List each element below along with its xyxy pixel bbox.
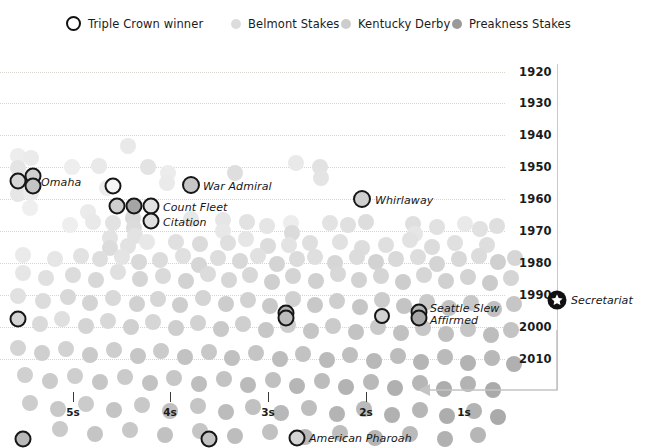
triple-crown-marker[interactable] <box>105 178 122 195</box>
data-point <box>17 367 33 383</box>
triple-crown-marker[interactable] <box>25 178 42 195</box>
annotation-war-admiral: War Admiral <box>203 180 272 193</box>
data-point <box>402 232 418 248</box>
data-point <box>168 320 184 336</box>
data-point <box>395 274 411 290</box>
data-point <box>10 288 26 304</box>
data-point <box>54 311 70 327</box>
data-point <box>120 138 136 154</box>
data-point <box>22 200 38 216</box>
triple-crown-marker[interactable] <box>15 431 32 448</box>
legend-label: Belmont Stakes <box>248 17 339 31</box>
data-point <box>38 270 54 286</box>
data-point <box>363 374 379 390</box>
data-point <box>303 323 319 339</box>
data-point <box>258 322 274 338</box>
annotation-american-pharoah: American Pharoah <box>309 432 412 445</box>
data-point <box>242 267 258 283</box>
data-point <box>23 150 39 166</box>
data-point <box>220 235 236 251</box>
data-point <box>329 293 345 309</box>
data-point <box>177 349 193 365</box>
data-point <box>285 268 301 284</box>
data-point <box>64 159 80 175</box>
legend-swatch-icon <box>231 19 241 29</box>
x-axis-label-2s: 2s <box>359 406 373 418</box>
data-point <box>114 249 130 265</box>
annotation-whirlaway: Whirlaway <box>375 194 433 207</box>
y-axis-label-1940: 1940 <box>519 128 552 142</box>
data-point <box>172 297 188 313</box>
y-axis-label-1920: 1920 <box>519 65 552 79</box>
data-point <box>155 268 171 284</box>
annotation-line: American Pharoah <box>309 432 412 445</box>
secretariat-star-icon[interactable] <box>548 291 567 310</box>
data-point <box>142 375 158 391</box>
data-point <box>269 256 285 272</box>
data-point <box>349 249 365 265</box>
data-point <box>85 214 101 230</box>
data-point <box>238 231 254 247</box>
data-point <box>240 292 256 308</box>
triple-crown-marker[interactable] <box>353 190 371 208</box>
data-point <box>106 342 122 358</box>
data-point <box>340 217 356 233</box>
legend-item-triple-crown-winner[interactable]: Triple Crown winner <box>66 16 203 31</box>
x-axis-label-1s: 1s <box>457 406 471 418</box>
data-point <box>159 175 175 191</box>
data-point <box>366 353 382 369</box>
data-point <box>15 247 31 263</box>
data-point <box>503 270 519 286</box>
triple-crown-marker[interactable] <box>182 176 200 194</box>
y-axis-label-1950: 1950 <box>519 160 552 174</box>
triple-crown-marker[interactable] <box>374 308 390 324</box>
data-point <box>259 218 275 234</box>
data-point <box>210 250 226 266</box>
legend-item-preakness-stakes[interactable]: Preakness Stakes <box>452 17 571 31</box>
data-point <box>78 318 94 334</box>
data-point <box>91 158 107 174</box>
triple-crown-marker[interactable] <box>411 310 428 327</box>
legend-swatch-icon <box>452 19 462 29</box>
triple-crown-marker[interactable] <box>289 430 306 447</box>
annotation-seattle-slew-affirmed: Seattle SlewAffirmed <box>430 303 499 326</box>
data-point <box>373 268 389 284</box>
data-point <box>62 217 78 233</box>
data-point <box>123 319 139 335</box>
data-point <box>289 251 305 267</box>
annotation-line: War Admiral <box>203 180 272 193</box>
data-point <box>295 346 311 362</box>
triple-crown-marker[interactable] <box>109 198 126 215</box>
legend-item-belmont-stakes[interactable]: Belmont Stakes <box>231 17 339 31</box>
x-axis-tick-3s <box>268 392 269 402</box>
triple-crown-marker[interactable] <box>10 311 27 328</box>
data-point <box>213 321 229 337</box>
data-point <box>216 371 232 387</box>
triple-crown-marker[interactable] <box>143 213 160 230</box>
y-axis-label-1970: 1970 <box>519 224 552 238</box>
data-point <box>460 269 476 285</box>
data-point <box>88 272 104 288</box>
data-point <box>388 251 404 267</box>
data-point <box>110 264 126 280</box>
annotation-line: Seattle Slew <box>430 303 499 315</box>
data-point <box>15 265 31 281</box>
data-point <box>262 298 278 314</box>
triple-crown-marker[interactable] <box>201 431 218 448</box>
data-point <box>503 322 519 338</box>
data-point <box>390 348 406 364</box>
data-point <box>457 216 473 232</box>
data-point <box>351 272 367 288</box>
data-point <box>264 274 280 290</box>
data-point <box>319 352 335 368</box>
x-axis-label-3s: 3s <box>261 406 275 418</box>
triple-crown-marker[interactable] <box>278 310 295 327</box>
y-axis-label-1960: 1960 <box>519 192 552 206</box>
annotation-line: Secretariat <box>571 294 633 307</box>
data-point <box>248 345 264 361</box>
data-point <box>195 290 211 306</box>
legend-item-kentucky-derby[interactable]: Kentucky Derby <box>341 17 450 31</box>
triple-crown-marker[interactable] <box>126 198 143 215</box>
data-point <box>410 249 426 265</box>
data-point <box>438 273 454 289</box>
